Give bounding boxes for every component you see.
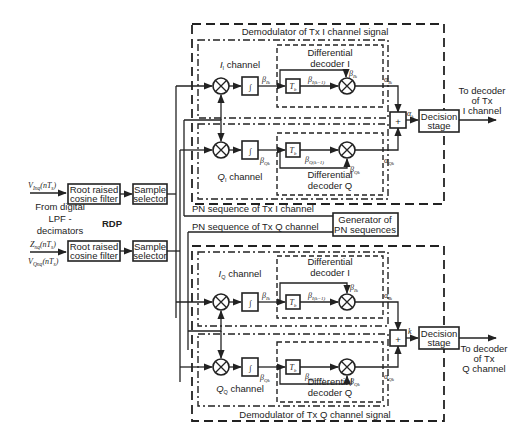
source-label-line3: decimators: [37, 225, 84, 236]
selector-i-label-2: selector: [133, 193, 166, 204]
beta-qk-label-a: βQk: [259, 156, 271, 166]
diff-dec-q-label-1: Differential: [307, 169, 352, 180]
diff-dec-iq-label-2: decoder I: [310, 267, 350, 278]
rdp-block-diagram: VInq(nTs) From digital LPF - decimators …: [0, 0, 516, 448]
diff-dec-i-label-1: Differential: [307, 47, 352, 58]
beta-ik-label-c: βIk: [261, 291, 271, 301]
beta-ik1-label-b: βI(k−1): [307, 291, 325, 301]
ii-channel-label: II channel: [220, 59, 260, 71]
input-z-nq-label: Znq(nTs): [30, 240, 56, 250]
pn-tx-q-label: PN sequence of Tx Q channel: [192, 221, 319, 232]
qi-channel-frame: [198, 124, 388, 199]
diff-dec-iq-label-1: Differential: [307, 256, 352, 267]
rrc-i-label-2: cosine filter: [70, 193, 118, 204]
alpha-qk-label-b: αQk: [384, 372, 395, 382]
beta-ik1-label: βI(k−1): [307, 75, 325, 85]
beta-qk-label-b: βQk: [349, 165, 361, 175]
diff-dec-qq-label-2: decoder Q: [308, 387, 352, 398]
plus-icon: +: [395, 116, 401, 127]
pn-gen-label-2: PN sequences: [334, 224, 396, 235]
demod-q-title: Demodulator of Tx Q channel signal: [239, 409, 390, 420]
beta-qk1-label: βQ(k−1): [304, 155, 324, 165]
input-section: VInq(nTs) From digital LPF - decimators …: [28, 181, 167, 267]
beta-qk1-label-b: βQ(k−1): [304, 372, 324, 382]
beta-qk-label-d: βQk: [349, 377, 361, 387]
demod-i-title: Demodulator of Tx I channel signal: [242, 26, 389, 37]
alpha-qk-label: αQk: [384, 156, 395, 166]
alpha-k-label: αk: [407, 109, 414, 119]
qi-channel-label: QI channel: [218, 171, 263, 183]
qq-channel-label: QQ channel: [216, 383, 264, 395]
output-i-label-3: I channel: [463, 105, 502, 116]
input-v-qnq-label: VQnq(nTs): [28, 257, 59, 267]
decision-q-label-2: stage: [427, 337, 450, 348]
diff-dec-i-label-2: decoder I: [310, 58, 350, 69]
iq-channel-label: IQ channel: [219, 268, 262, 280]
decision-i-label-2: stage: [427, 120, 450, 131]
input-v-inq-label: VInq(nTs): [28, 181, 57, 191]
output-q-label-3: Q channel: [462, 363, 505, 374]
beta-ik-label-a: βIk: [261, 75, 271, 85]
iq-channel-frame: [198, 252, 388, 326]
beta-ik-label-d: βIk: [349, 283, 359, 293]
beta-ik-label-b: βIk: [348, 69, 358, 79]
source-label-line2: LPF -: [48, 213, 71, 224]
rdp-label: RDP: [102, 218, 123, 229]
k-label: k: [408, 327, 412, 336]
rrc-q-label-2: cosine filter: [70, 250, 118, 261]
plus-icon: +: [395, 334, 401, 345]
demodulator-tx-q: Demodulator of Tx Q channel signal IQ ch…: [176, 246, 508, 421]
demodulator-tx-i: Demodulator of Tx I channel signal II ch…: [176, 24, 506, 204]
diff-dec-q-label-2: decoder Q: [308, 180, 352, 191]
beta-qk-label-c: βQk: [259, 373, 271, 383]
selector-q-label-2: selector: [133, 250, 166, 261]
